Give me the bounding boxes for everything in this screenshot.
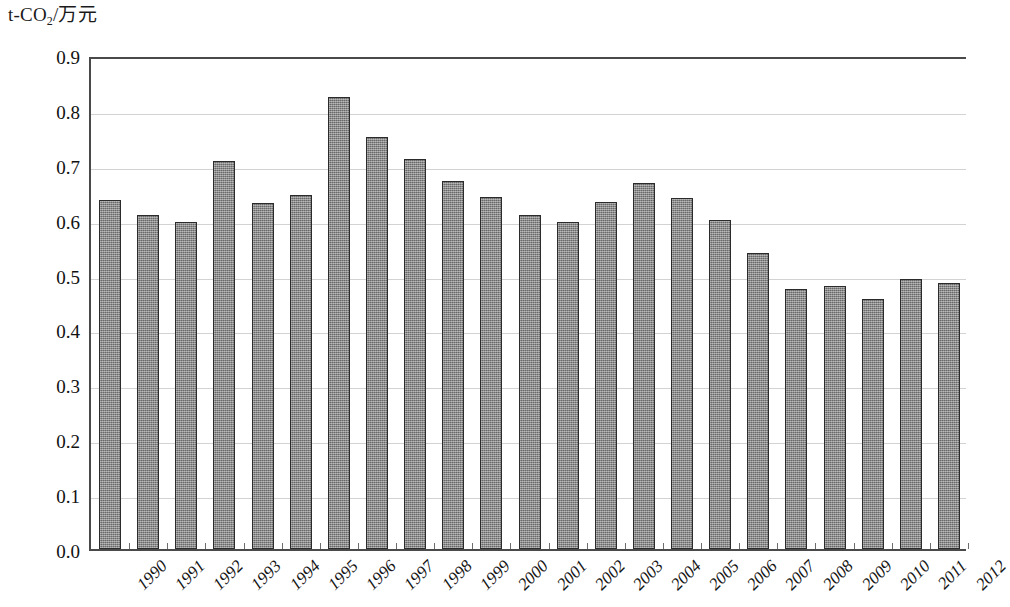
x-axis-tick-label: 1992 bbox=[210, 557, 246, 593]
x-axis-tick-label: 2010 bbox=[897, 557, 933, 593]
x-axis-tick-label: 1991 bbox=[172, 557, 208, 593]
x-axis-tick-label: 2006 bbox=[744, 557, 780, 593]
x-axis-tick-label: 1994 bbox=[287, 557, 323, 593]
x-axis-tick-label: 2001 bbox=[553, 557, 589, 593]
x-axis-tick-label: 1993 bbox=[248, 557, 284, 593]
x-axis-tick-label: 1997 bbox=[401, 557, 437, 593]
x-axis-tick-mark bbox=[968, 543, 969, 549]
x-axis-tick-label: 1999 bbox=[477, 557, 513, 593]
x-axis-tick-label: 2003 bbox=[630, 557, 666, 593]
x-axis-tick-label: 2005 bbox=[706, 557, 742, 593]
x-axis-tick-label: 1996 bbox=[363, 557, 399, 593]
x-axis-tick-label: 2004 bbox=[668, 557, 704, 593]
x-axis-tick-label: 2012 bbox=[973, 557, 1009, 593]
x-axis-tick-label: 1990 bbox=[134, 557, 170, 593]
x-axis-tick-label: 1998 bbox=[439, 557, 475, 593]
x-axis-tick-label: 2007 bbox=[782, 557, 818, 593]
x-axis-tick-label: 2002 bbox=[592, 557, 628, 593]
x-axis-tick-label: 2009 bbox=[858, 557, 894, 593]
x-axis-tick-label: 2008 bbox=[820, 557, 856, 593]
x-axis-tick-label: 2000 bbox=[515, 557, 551, 593]
x-axis-tick-label: 2011 bbox=[934, 557, 969, 592]
x-axis-tick-label: 1995 bbox=[325, 557, 361, 593]
